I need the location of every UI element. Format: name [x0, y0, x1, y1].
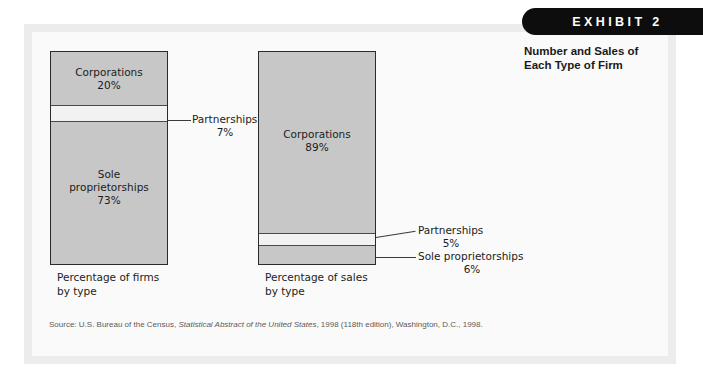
bar-label-firms-corporations: Corporations 20% [50, 66, 168, 92]
leader-line-firms-partnerships [168, 120, 191, 121]
callout-firms-partnerships: Partnerships 7% [192, 113, 258, 139]
axis-caption-firms-line-1: Percentage of firms [57, 270, 197, 284]
bar-label-firms-corporations-text: Corporations [75, 66, 143, 78]
bar-label-firms-sole-pct: 73% [97, 194, 120, 206]
axis-caption-firms-line-2: by type [57, 284, 197, 298]
callout-sales-partnerships: Partnerships 5% [418, 224, 484, 250]
callout-sales-sole-pct: 6% [418, 263, 526, 276]
source-prefix: Source: U.S. Bureau of the Census, [49, 320, 178, 329]
bar-label-firms-sole-line-1: Sole [98, 168, 120, 180]
source-title-italic: Statistical Abstract of the United State… [178, 320, 316, 329]
callout-sales-sole-label: Sole proprietorships [418, 250, 523, 262]
bar-label-sales-corporations-text: Corporations [283, 128, 351, 140]
axis-caption-sales-line-1: Percentage of sales [265, 270, 405, 284]
callout-sales-sole-proprietorships: Sole proprietorships 6% [418, 250, 526, 276]
callout-firms-partnerships-label: Partnerships [192, 113, 257, 125]
callout-sales-partnerships-pct: 5% [418, 237, 484, 250]
source-suffix: , 1998 (118th edition), Washington, D.C.… [316, 320, 482, 329]
exhibit-figure: EXHIBIT 2 Number and Sales of Each Type … [0, 0, 703, 379]
bar-segment-sales-partnerships [259, 233, 375, 245]
bar-label-sales-corporations: Corporations 89% [258, 128, 376, 154]
bar-label-firms-sole-line-2: proprietorships [69, 181, 149, 193]
axis-caption-firms: Percentage of firms by type [57, 270, 197, 298]
bar-label-firms-corporations-pct: 20% [97, 79, 120, 91]
axis-caption-sales-line-2: by type [265, 284, 405, 298]
source-note: Source: U.S. Bureau of the Census, Stati… [49, 319, 629, 331]
callout-sales-partnerships-label: Partnerships [418, 224, 483, 236]
bar-label-sales-corporations-pct: 89% [305, 141, 328, 153]
stacked-bar-sales [258, 51, 376, 265]
axis-caption-sales: Percentage of sales by type [265, 270, 405, 298]
bar-segment-sales-sole-proprietorships [259, 245, 375, 264]
callout-firms-partnerships-pct: 7% [192, 126, 258, 139]
bar-label-firms-sole-proprietorships: Sole proprietorships 73% [50, 168, 168, 207]
leader-line-sales-sole-proprietorships [376, 257, 416, 258]
bar-segment-firms-partnerships [51, 105, 167, 121]
leader-line-sales-partnerships [376, 231, 416, 238]
